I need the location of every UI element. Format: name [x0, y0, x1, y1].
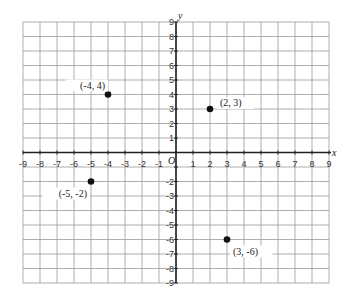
y-tick-label: 3: [169, 104, 174, 114]
x-tick-label: 2: [207, 159, 212, 169]
x-tick-label: -2: [138, 159, 146, 169]
x-axis-label: x: [331, 147, 337, 158]
x-tick-label: -4: [104, 159, 112, 169]
y-tick-label: 1: [169, 133, 174, 143]
y-tick-label: 6: [169, 61, 174, 71]
data-point: [224, 236, 231, 243]
coordinate-plane: xyO-9-8-7-6-5-4-3-2-1123456789987654321-…: [0, 0, 352, 303]
y-tick-label: -7: [166, 249, 174, 259]
y-tick-label: 5: [169, 75, 174, 85]
x-tick-label: 6: [275, 159, 280, 169]
point-label: (3, -6): [233, 246, 258, 258]
y-tick-label: -5: [166, 220, 174, 230]
y-axis-label: y: [177, 10, 183, 21]
point-label: (-5, -2): [59, 188, 87, 200]
x-tick-label: 7: [292, 159, 297, 169]
origin-label: O: [168, 155, 175, 166]
x-tick-label: -3: [121, 159, 129, 169]
y-tick-label: -4: [166, 206, 174, 216]
x-tick-label: 5: [258, 159, 263, 169]
y-tick-label: -9: [166, 278, 174, 288]
y-tick-label: -8: [166, 264, 174, 274]
x-tick-label: 3: [224, 159, 229, 169]
y-tick-label: -6: [166, 235, 174, 245]
data-point: [88, 178, 95, 185]
x-tick-label: 8: [309, 159, 314, 169]
x-tick-label: -5: [87, 159, 95, 169]
data-point: [105, 91, 112, 98]
y-tick-label: -2: [166, 177, 174, 187]
y-tick-label: 9: [169, 17, 174, 27]
y-tick-label: 2: [169, 119, 174, 129]
x-tick-label: -8: [36, 159, 44, 169]
x-tick-label: -9: [19, 159, 27, 169]
data-point: [207, 106, 214, 113]
x-tick-label: -6: [70, 159, 78, 169]
y-tick-label: 8: [169, 32, 174, 42]
x-tick-label: -7: [53, 159, 61, 169]
x-tick-label: 4: [241, 159, 246, 169]
x-tick-label: 1: [190, 159, 195, 169]
x-tick-label: 9: [326, 159, 331, 169]
y-tick-label: 4: [169, 90, 174, 100]
point-label: (2, 3): [220, 97, 242, 109]
x-tick-label: -1: [155, 159, 163, 169]
y-tick-label: 7: [169, 46, 174, 56]
point-label: (-4, 4): [80, 80, 105, 92]
y-tick-label: -3: [166, 191, 174, 201]
